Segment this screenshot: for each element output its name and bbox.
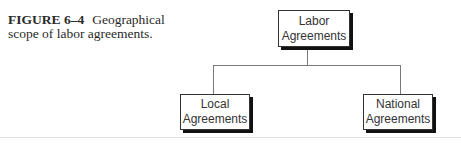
node-label-line1: Labor xyxy=(299,14,330,29)
connector-left-down xyxy=(213,65,214,94)
node-local-agreements: Local Agreements xyxy=(180,94,250,130)
node-national-agreements: National Agreements xyxy=(363,94,433,130)
page-divider xyxy=(0,137,461,138)
node-label-line2: Agreements xyxy=(282,29,347,44)
connector-right-down xyxy=(400,65,401,94)
figure-caption: FIGURE 6–4Geographical scope of labor ag… xyxy=(8,13,198,41)
connector-horizontal xyxy=(213,65,401,66)
node-label-line2: Agreements xyxy=(183,112,248,127)
node-label-line2: Agreements xyxy=(366,112,431,127)
figure-label: FIGURE 6–4 xyxy=(8,12,84,27)
node-label-line1: National xyxy=(376,97,420,112)
connector-root-down xyxy=(307,47,308,66)
node-labor-agreements: Labor Agreements xyxy=(278,10,350,47)
node-label-line1: Local xyxy=(201,97,230,112)
